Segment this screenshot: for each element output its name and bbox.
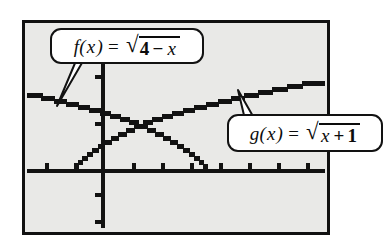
formula-f-radicand-first: 4 [140, 39, 150, 58]
formula-g-radicand-operator: + [331, 126, 348, 145]
graph-figure: f(x) = √ 4 − x g(x) = √ x + 1 [0, 0, 390, 248]
formula-f-radicand-second: x [167, 39, 178, 58]
formula-f-equals: = [103, 37, 124, 56]
callout-g-box: g(x) = √ x + 1 [227, 114, 383, 152]
formula-f-radicand: 4 − x [139, 36, 180, 58]
formula-f-radical: √ 4 − x [126, 35, 180, 58]
formula-g-radicand: x + 1 [319, 123, 360, 145]
x-axis-ticks [45, 163, 310, 169]
formula-g-radicand-second: 1 [348, 126, 358, 145]
formula-g-function-name: g [250, 124, 260, 143]
callout-f-box: f(x) = √ 4 − x [50, 28, 204, 64]
radical-sign-icon: √ [126, 34, 139, 57]
formula-g-equals: = [283, 124, 304, 143]
formula-g-radical: √ x + 1 [306, 122, 360, 145]
x-axis [27, 169, 325, 173]
formula-f-radicand-operator: − [149, 39, 166, 58]
formula-f-argument: x [86, 37, 97, 56]
formula-g: g(x) = √ x + 1 [250, 122, 361, 145]
formula-g-radicand-first: x [320, 126, 331, 145]
formula-f: f(x) = √ 4 − x [74, 35, 180, 58]
radical-sign-icon: √ [306, 121, 319, 144]
formula-g-argument: x [266, 124, 277, 143]
